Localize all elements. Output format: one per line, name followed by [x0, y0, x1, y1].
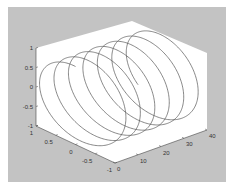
y-tick-label: 20	[163, 150, 170, 156]
x-tick-label: -1	[107, 167, 113, 173]
y-tick-label: 40	[209, 133, 216, 139]
y-tick-label: 10	[140, 158, 147, 164]
z-tick-label: -1	[28, 123, 34, 129]
figure-canvas: 10.50-0.5-1 10.50-0.5-1 010203040	[0, 0, 233, 189]
y-tick-label: 30	[186, 141, 193, 147]
x-tick-label: -0.5	[82, 158, 93, 164]
x-tick-label: 0.5	[44, 139, 53, 145]
z-tick-label: -0.5	[23, 104, 34, 110]
z-tick-label: 0.5	[25, 65, 34, 71]
